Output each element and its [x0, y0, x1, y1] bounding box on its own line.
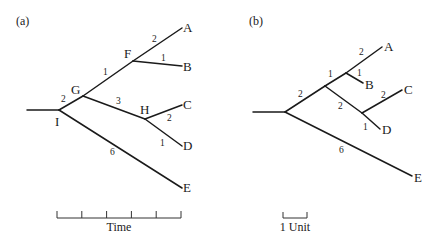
branch-length-G-H: 3	[116, 96, 121, 106]
panel-b-tree: (b) A B C D E 2 1 2 1 2 2 1 6 1 Unit	[249, 14, 422, 234]
tip-label-C: C	[404, 82, 413, 97]
phylogenetic-trees-figure: (a) I G F H A B C D E 2 1 2 1 3 2 1 6	[0, 0, 443, 240]
branch-root-E	[285, 112, 412, 176]
branch-length-F-A: 2	[152, 34, 157, 44]
tip-label-D: D	[183, 138, 192, 153]
branch-G-H	[83, 96, 145, 119]
branch-length-H-C: 2	[167, 113, 172, 123]
branch-I-E	[59, 110, 182, 188]
branch-G-F	[83, 61, 133, 96]
time-axis-label: Time	[107, 220, 132, 234]
tip-label-B: B	[365, 77, 374, 92]
branch-AB-A	[346, 47, 382, 73]
branch-root-ABCD	[285, 86, 325, 112]
branch-length-AB-B: 1	[357, 68, 362, 78]
branch-to-CD	[325, 86, 362, 113]
branch-F-A	[133, 28, 182, 61]
branch-length-root-ABCD: 2	[298, 89, 303, 99]
branch-length-H-D: 1	[160, 138, 165, 148]
tip-label-A: A	[183, 20, 193, 35]
branch-length-CD-C: 2	[381, 90, 386, 100]
branch-length-CD-D: 1	[363, 122, 368, 132]
time-scale-bar	[57, 211, 181, 218]
panel-a-label: (a)	[16, 14, 29, 28]
branch-length-I-G: 2	[61, 94, 66, 104]
branch-length-to-AB: 1	[328, 69, 333, 79]
branch-length-AB-A: 2	[359, 47, 364, 57]
branch-length-to-CD: 2	[338, 101, 343, 111]
node-label-I: I	[55, 114, 59, 129]
branch-length-root-E: 6	[339, 145, 344, 155]
node-label-F: F	[124, 46, 131, 61]
node-label-H: H	[140, 102, 149, 117]
branch-length-G-F: 1	[103, 67, 108, 77]
branch-length-I-E: 6	[110, 147, 115, 157]
tip-label-E: E	[183, 180, 191, 195]
unit-scale-label: 1 Unit	[280, 220, 311, 234]
unit-scale-bar	[283, 212, 307, 218]
panel-b-label: (b)	[249, 14, 263, 28]
branch-H-C	[145, 105, 182, 119]
tip-label-C: C	[183, 97, 192, 112]
tip-label-E: E	[414, 170, 422, 185]
node-label-G: G	[71, 82, 80, 97]
tip-label-D: D	[382, 122, 391, 137]
tip-label-A: A	[384, 39, 394, 54]
branch-F-B	[133, 61, 182, 66]
panel-a-tree: (a) I G F H A B C D E 2 1 2 1 3 2 1 6	[16, 14, 193, 234]
tip-label-B: B	[183, 59, 192, 74]
branch-length-F-B: 1	[161, 53, 166, 63]
